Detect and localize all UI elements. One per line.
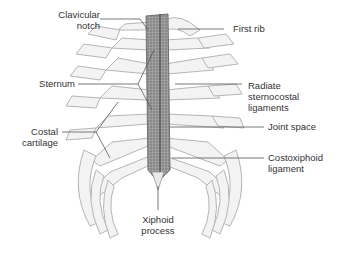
label-joint-space: Joint space [268, 121, 316, 132]
sternum-bone [146, 14, 170, 190]
label-costal-cartilage: Costal cartilage [4, 126, 58, 148]
left-ribs [66, 22, 152, 238]
label-costoxiphoid-ligament: Costoxiphoid ligament [268, 152, 323, 174]
right-ribs [163, 18, 244, 238]
label-xiphoid-process: Xiphoid process [132, 214, 184, 236]
sternum-diagram: Clavicular notch First rib Sternum Radia… [0, 0, 340, 254]
label-first-rib: First rib [233, 23, 265, 34]
label-sternum: Sternum [20, 78, 75, 89]
label-clavicular-notch: Clavicular notch [48, 9, 100, 31]
label-radiate-sternocostal-ligaments: Radiate sternocostal ligaments [248, 80, 299, 113]
